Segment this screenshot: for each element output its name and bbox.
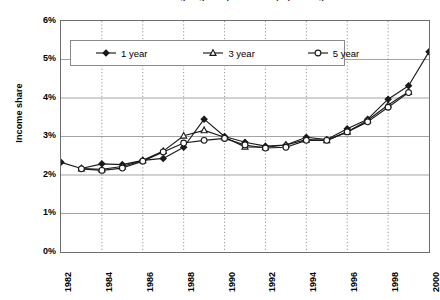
series-point-3-year: [201, 127, 207, 133]
y-tick-label: 4%: [30, 93, 56, 102]
series-point-5-year: [79, 166, 85, 172]
series-line-5-year: [81, 93, 408, 171]
series-point-5-year: [242, 142, 248, 148]
open-triangle-icon: [202, 47, 224, 59]
y-axis-title: Income share: [14, 58, 24, 168]
legend-entry-1-year: 1 year: [95, 47, 147, 59]
series-point-5-year: [201, 137, 207, 143]
series-point-5-year: [140, 158, 146, 164]
y-tick-label: 0%: [30, 247, 56, 256]
y-tick-label: 2%: [30, 170, 56, 179]
series-point-5-year: [344, 129, 350, 135]
x-axis-tick-labels: 1982198419861988199019921994199619982000: [60, 256, 430, 300]
open-circle-icon: [307, 47, 329, 59]
x-tick-label: 1994: [309, 272, 318, 292]
legend-entry-3-year: 3 year: [202, 47, 254, 59]
series-point-5-year: [283, 144, 289, 150]
series-point-1-year: [61, 159, 64, 165]
series-point-1-year: [160, 155, 166, 161]
x-tick-label: 1990: [228, 272, 237, 292]
x-tick-label: 2000: [432, 272, 440, 292]
x-tick-label: 1992: [268, 272, 277, 292]
series-point-5-year: [119, 165, 125, 171]
series-point-5-year: [324, 137, 330, 143]
series-point-1-year: [426, 49, 429, 55]
series-point-5-year: [385, 104, 391, 110]
series-point-3-year: [181, 132, 187, 138]
series-point-5-year: [181, 140, 187, 146]
x-tick-label: 1984: [105, 272, 114, 292]
series-line-1-year: [61, 52, 429, 169]
y-tick-label: 6%: [30, 16, 56, 25]
x-tick-label: 1998: [391, 272, 400, 292]
y-tick-label: 1%: [30, 208, 56, 217]
chart-figure: Share of income going to top earners by …: [0, 0, 440, 300]
legend-marker: [103, 50, 109, 56]
y-axis-tick-labels: 6%5%4%3%2%1%0%: [28, 20, 56, 253]
legend-label: 5 year: [333, 48, 359, 59]
legend-entry-5-year: 5 year: [307, 47, 359, 59]
chart-title: Share of income going to top earners by …: [0, 0, 440, 1]
series-point-5-year: [222, 136, 228, 142]
x-tick-label: 1982: [64, 272, 73, 292]
x-tick-label: 1996: [350, 272, 359, 292]
y-tick-label: 5%: [30, 54, 56, 63]
x-tick-label: 1988: [187, 272, 196, 292]
legend-label: 1 year: [121, 48, 147, 59]
series-point-5-year: [160, 149, 166, 155]
series-point-5-year: [365, 119, 371, 125]
series-point-5-year: [406, 90, 412, 96]
legend-label: 3 year: [228, 48, 254, 59]
filled-diamond-icon: [95, 47, 117, 59]
legend-marker: [315, 50, 321, 56]
y-tick-label: 3%: [30, 131, 56, 140]
chart-legend: 1 year3 year5 year: [70, 40, 345, 66]
legend-marker: [210, 50, 216, 56]
series-line-3-year: [81, 92, 408, 169]
series-point-5-year: [263, 145, 269, 151]
x-tick-label: 1986: [146, 272, 155, 292]
series-point-5-year: [99, 167, 105, 173]
series-point-5-year: [303, 137, 309, 143]
